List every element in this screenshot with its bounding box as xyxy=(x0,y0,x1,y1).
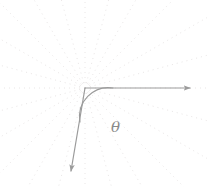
grid-ray xyxy=(85,5,207,88)
diagram-canvas: θ xyxy=(0,0,207,187)
theta-angle-label: θ xyxy=(111,120,120,135)
grid-ray xyxy=(0,0,85,88)
rays-group xyxy=(71,88,190,171)
grid-ray xyxy=(85,0,207,88)
grid-ray xyxy=(0,88,85,187)
grid-ray xyxy=(2,0,85,88)
grid-ray xyxy=(0,0,85,88)
grid-ray xyxy=(85,0,207,88)
grid-ray xyxy=(2,88,85,187)
grid-ray xyxy=(0,88,85,171)
grid-ray xyxy=(0,88,85,187)
grid-ray xyxy=(0,0,85,88)
lower-left-ray xyxy=(71,88,85,171)
grid-ray xyxy=(85,88,207,187)
grid-ray xyxy=(85,88,168,187)
grid-ray xyxy=(85,0,168,88)
grid-ray xyxy=(85,88,207,187)
grid-ray xyxy=(85,88,207,171)
angle-diagram-svg xyxy=(0,0,207,187)
grid-ray xyxy=(85,0,207,88)
grid-ray xyxy=(0,5,85,88)
grid-ray xyxy=(85,88,207,187)
radial-dotted-grid xyxy=(0,0,207,187)
grid-ray xyxy=(0,88,85,187)
